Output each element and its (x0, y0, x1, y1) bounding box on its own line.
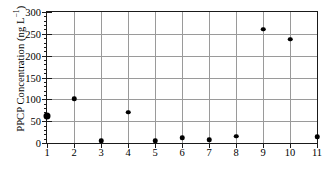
y-axis-minor-tick (44, 16, 47, 17)
x-axis-tick-label: 4 (125, 147, 130, 158)
x-gridline (236, 12, 237, 143)
y-axis-minor-tick (44, 60, 47, 61)
y-axis-tick-label: 200 (25, 50, 41, 61)
clipped-caption (0, 164, 332, 176)
y-axis-tick-label: 300 (25, 7, 41, 18)
data-point (44, 112, 51, 119)
y-axis-tick-inner (47, 99, 52, 100)
plot-area: 3002502001501005001234567891011 (46, 11, 318, 144)
y-axis-minor-tick (44, 64, 47, 65)
x-axis-tick-label: 7 (206, 147, 211, 158)
x-gridline (101, 12, 102, 143)
y-axis-minor-tick (44, 126, 47, 127)
y-axis-title-exponent: −1 (12, 9, 21, 17)
data-point (180, 136, 185, 141)
y-axis-minor-tick (44, 108, 47, 109)
data-point (126, 110, 131, 115)
y-axis-tick-label: 150 (25, 72, 41, 83)
x-gridline (182, 12, 183, 143)
y-axis-minor-tick (44, 139, 47, 140)
y-axis-title: PPCP Concentration (ng L−1) (12, 0, 26, 144)
y-axis-minor-tick (44, 91, 47, 92)
y-axis-minor-tick (44, 21, 47, 22)
y-axis-tick-label: 250 (25, 28, 41, 39)
data-point (288, 37, 293, 42)
x-gridline (209, 12, 210, 143)
y-axis-minor-tick (44, 69, 47, 70)
x-gridline (74, 12, 75, 143)
y-axis-minor-tick (44, 51, 47, 52)
y-axis-tick-inner (47, 12, 52, 13)
y-axis-title-tail: ) (15, 6, 26, 10)
y-axis-tick-label: 50 (31, 116, 42, 127)
data-point (153, 139, 158, 144)
x-gridline (263, 12, 264, 143)
ppcp-concentration-scatter-chart: PPCP Concentration (ng L−1) 300250200150… (0, 0, 332, 176)
y-axis-minor-tick (44, 73, 47, 74)
x-gridline (290, 12, 291, 143)
data-point (99, 139, 104, 144)
y-axis-minor-tick (44, 104, 47, 105)
x-axis-tick-label: 1 (44, 147, 49, 158)
y-axis-tick-inner (47, 56, 52, 57)
y-axis-minor-tick (44, 25, 47, 26)
x-axis-tick-label: 2 (71, 147, 76, 158)
y-axis-minor-tick (44, 29, 47, 30)
data-point (315, 135, 320, 140)
x-gridline (155, 12, 156, 143)
y-axis-minor-tick (44, 38, 47, 39)
data-point (207, 137, 212, 142)
data-point (234, 134, 239, 139)
y-axis-tick-inner (47, 121, 52, 122)
x-gridline (128, 12, 129, 143)
y-axis-tick-label: 0 (36, 138, 41, 149)
y-axis-minor-tick (44, 130, 47, 131)
y-axis-minor-tick (44, 95, 47, 96)
x-axis-tick-label: 9 (260, 147, 265, 158)
y-axis-minor-tick (44, 47, 47, 48)
y-axis-tick-inner (47, 78, 52, 79)
x-axis-tick-label: 11 (312, 147, 322, 158)
y-axis-minor-tick (44, 134, 47, 135)
x-axis-tick-label: 5 (152, 147, 157, 158)
y-axis-title-main: PPCP Concentration (ng L (15, 18, 26, 132)
y-axis-minor-tick (44, 43, 47, 44)
y-axis-tick-inner (47, 34, 52, 35)
x-axis-tick-label: 10 (285, 147, 296, 158)
x-axis-tick-label: 6 (179, 147, 184, 158)
y-axis-minor-tick (44, 82, 47, 83)
x-axis-tick-label: 3 (98, 147, 103, 158)
y-axis-tick-label: 100 (25, 94, 41, 105)
x-axis-tick-label: 8 (233, 147, 238, 158)
y-axis-minor-tick (44, 86, 47, 87)
data-point (72, 97, 77, 102)
data-point (261, 27, 266, 32)
